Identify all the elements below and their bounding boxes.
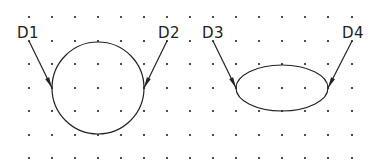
grid-dot xyxy=(212,110,214,112)
grid-dot xyxy=(120,63,122,65)
grid-dot xyxy=(97,16,99,18)
grid-dot xyxy=(28,87,30,89)
grid-dot xyxy=(327,40,329,42)
grid-dot xyxy=(351,110,353,112)
grid-dot xyxy=(351,157,353,159)
grid-dot xyxy=(74,87,76,89)
grid-dot xyxy=(258,134,260,136)
grid-dot xyxy=(189,134,191,136)
grid-dot xyxy=(74,134,76,136)
grid-dot xyxy=(304,63,306,65)
grid-dot xyxy=(143,63,145,65)
grid-dot xyxy=(189,87,191,89)
grid-dot xyxy=(143,40,145,42)
grid-dot xyxy=(258,63,260,65)
grid-dot xyxy=(304,134,306,136)
grid-dot xyxy=(258,110,260,112)
grid-dot xyxy=(235,63,237,65)
grid-dot xyxy=(51,63,53,65)
grid-dot xyxy=(258,40,260,42)
grid-dot xyxy=(304,110,306,112)
arrowhead-icon xyxy=(144,77,151,88)
grid-dot xyxy=(304,16,306,18)
grid-dot xyxy=(74,157,76,159)
grid-dot xyxy=(166,110,168,112)
grid-dot xyxy=(166,16,168,18)
grid-dot xyxy=(351,63,353,65)
grid-dot xyxy=(304,157,306,159)
grid-dot xyxy=(74,40,76,42)
arrowhead-icon xyxy=(229,77,236,88)
grid-dot xyxy=(166,87,168,89)
grid-dot xyxy=(327,16,329,18)
grid-dot xyxy=(281,134,283,136)
label-d4: D4 xyxy=(342,26,364,41)
grid-dot xyxy=(235,134,237,136)
grid-dot xyxy=(189,157,191,159)
grid-dot xyxy=(258,87,260,89)
grid-dot xyxy=(235,157,237,159)
grid-dot xyxy=(97,87,99,89)
grid-dot xyxy=(51,40,53,42)
label-d2: D2 xyxy=(158,26,180,41)
grid-dot xyxy=(351,87,353,89)
grid-dot xyxy=(120,134,122,136)
grid-dot xyxy=(120,16,122,18)
grid-dot xyxy=(304,87,306,89)
grid-dot xyxy=(189,40,191,42)
grid-dot xyxy=(327,110,329,112)
grid-dot xyxy=(166,157,168,159)
grid-dot xyxy=(97,157,99,159)
grid-dot xyxy=(120,110,122,112)
grid-dot xyxy=(51,16,53,18)
grid-dot xyxy=(51,110,53,112)
grid-dot xyxy=(212,157,214,159)
grid-dot xyxy=(28,16,30,18)
grid-dot xyxy=(189,16,191,18)
grid-dot xyxy=(258,157,260,159)
grid-dot xyxy=(28,63,30,65)
grid-dot xyxy=(143,110,145,112)
arrowhead-icon xyxy=(45,77,52,88)
grid-dot xyxy=(212,63,214,65)
grid-dot xyxy=(235,110,237,112)
dot-grid xyxy=(28,16,353,159)
grid-dot xyxy=(212,16,214,18)
grid-dot xyxy=(281,87,283,89)
grid-dot xyxy=(74,16,76,18)
grid-dot xyxy=(351,16,353,18)
grid-dot xyxy=(212,134,214,136)
label-d1: D1 xyxy=(17,26,39,41)
grid-dot xyxy=(166,63,168,65)
grid-dot xyxy=(327,134,329,136)
grid-dot xyxy=(281,16,283,18)
grid-dot xyxy=(97,63,99,65)
diagram-canvas xyxy=(0,0,381,168)
grid-dot xyxy=(120,40,122,42)
grid-dot xyxy=(97,110,99,112)
grid-dot xyxy=(120,157,122,159)
grid-dot xyxy=(28,157,30,159)
grid-dot xyxy=(166,134,168,136)
grid-dot xyxy=(74,110,76,112)
grid-dot xyxy=(351,134,353,136)
grid-dot xyxy=(327,157,329,159)
grid-dot xyxy=(235,40,237,42)
grid-dot xyxy=(74,63,76,65)
arrowhead-icon xyxy=(328,77,335,88)
grid-dot xyxy=(51,134,53,136)
grid-dot xyxy=(189,63,191,65)
grid-dot xyxy=(28,134,30,136)
grid-dot xyxy=(189,110,191,112)
grid-dot xyxy=(28,110,30,112)
grid-dot xyxy=(120,87,122,89)
grid-dot xyxy=(258,16,260,18)
grid-dot xyxy=(281,157,283,159)
grid-dot xyxy=(212,87,214,89)
grid-dot xyxy=(281,40,283,42)
grid-dot xyxy=(327,63,329,65)
grid-dot xyxy=(143,134,145,136)
label-d3: D3 xyxy=(202,26,224,41)
grid-dot xyxy=(51,157,53,159)
grid-dot xyxy=(304,40,306,42)
